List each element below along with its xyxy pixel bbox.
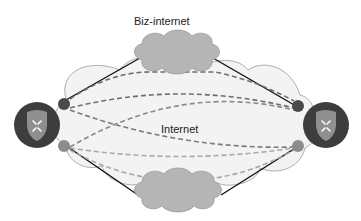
biz-internet-cloud-bottom [135,168,222,212]
biz-internet-cloud-top [135,30,220,74]
right-bottom-port [292,140,304,152]
internet-label: Internet [161,123,198,135]
right-router-icon [303,102,349,148]
left-router-icon [14,102,60,148]
network-diagram [0,0,361,221]
internet-cloud [53,58,318,185]
left-top-port [58,98,70,110]
right-top-port [292,100,304,112]
left-bottom-port [58,140,70,152]
biz-internet-label: Biz-internet [134,15,190,27]
